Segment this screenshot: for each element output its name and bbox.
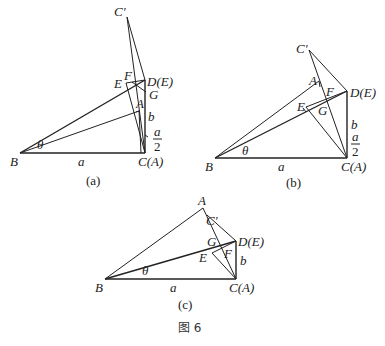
label-E: E (198, 250, 207, 265)
caption-c: (c) (178, 297, 192, 312)
label-D: D(E) (349, 85, 376, 100)
label-B: B (95, 280, 103, 295)
label-D: D(E) (237, 234, 264, 249)
label-theta: θ (142, 263, 149, 278)
label-b: b (240, 253, 247, 268)
panel-a: B C(A) D(E) C′ E F G A b a θ a 2 (a) (10, 4, 173, 188)
label-G: G (149, 87, 159, 102)
label-Cprime: C′ (114, 4, 126, 19)
label-a: a (278, 159, 285, 174)
label-E: E (113, 76, 122, 91)
label-C: C(A) (341, 159, 366, 174)
label-theta: θ (37, 137, 44, 152)
figure-6-diagram: B C(A) D(E) C′ E F G A b a θ a 2 (a) B C… (0, 0, 385, 346)
label-F: F (123, 68, 133, 83)
segment-BA (105, 208, 203, 279)
label-half-num: a (352, 129, 359, 144)
label-Cprime: C′ (206, 213, 218, 228)
caption-b: (b) (286, 175, 301, 190)
label-B: B (205, 159, 213, 174)
label-half-den: 2 (352, 144, 359, 159)
caption-a: (a) (86, 173, 100, 188)
label-G: G (207, 234, 217, 249)
segment-BA (215, 81, 319, 158)
label-a: a (78, 154, 85, 169)
label-Cprime: C′ (296, 41, 308, 56)
label-A: A (308, 73, 317, 88)
label-F: F (325, 84, 335, 99)
segment-EC (126, 83, 145, 153)
label-F: F (223, 246, 233, 261)
panel-b: B C(A) D(E) C′ E F G A b a θ a 2 (b) (205, 41, 376, 190)
label-C: C(A) (229, 280, 254, 295)
label-B: B (10, 154, 18, 169)
figure-caption: 图 6 (178, 321, 201, 335)
panel-c: B C(A) D(E) C′ E F G A b a θ (c) (95, 193, 264, 312)
label-theta: θ (242, 143, 249, 158)
label-A: A (135, 96, 144, 111)
label-half-num: a (154, 124, 161, 139)
label-b: b (148, 109, 155, 124)
label-E: E (296, 99, 305, 114)
label-G: G (318, 103, 328, 118)
label-a: a (170, 280, 177, 295)
label-C: C(A) (138, 154, 163, 169)
label-A: A (197, 193, 206, 208)
label-half-den: 2 (154, 139, 161, 154)
